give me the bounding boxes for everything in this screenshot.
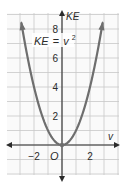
equation-eq: = xyxy=(53,35,59,47)
vertex-point xyxy=(60,143,64,147)
origin-label: O xyxy=(50,150,59,162)
equation-exp: 2 xyxy=(72,34,76,41)
y-tick-label: 4 xyxy=(52,82,58,93)
svg-text:KE = v 2: KE = v 2 xyxy=(34,34,76,47)
y-axis-arrow-down-icon xyxy=(59,176,65,182)
x-tick-label: 2 xyxy=(87,151,93,162)
y-axis-label: KE xyxy=(66,11,80,22)
equation-label: KE = v 2 xyxy=(32,33,76,47)
y-tick-label: 6 xyxy=(52,53,58,64)
x-tick-label: −2 xyxy=(28,151,40,162)
equation-base: v xyxy=(63,35,70,47)
parabola-chart: −222468 KE v O KE = v 2 xyxy=(0,0,125,187)
equation-lhs: KE xyxy=(34,35,49,47)
y-tick-label: 2 xyxy=(52,111,58,122)
